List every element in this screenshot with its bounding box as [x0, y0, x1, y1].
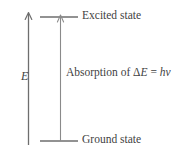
energy-axis-label: E [21, 70, 28, 82]
delta-symbol: Δ [133, 66, 140, 78]
absorption-arrow-group [57, 15, 63, 141]
energy-symbol: E [141, 66, 148, 78]
excited-state-label: Excited state [82, 10, 141, 22]
absorption-equation-label: Absorption of ΔE = hν [66, 67, 171, 79]
ground-state-label: Ground state [82, 134, 141, 146]
energy-level-diagram: E Excited state Ground state Absorption … [0, 0, 175, 157]
equals-symbol: = [148, 66, 160, 78]
absorption-prefix-text: Absorption of [66, 66, 133, 78]
frequency-symbol: ν [166, 66, 171, 78]
